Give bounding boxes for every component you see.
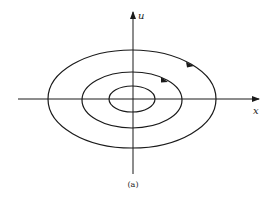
figure-caption: (a)	[127, 180, 138, 189]
x-axis-label: x	[253, 105, 259, 116]
y-axis-label: u	[138, 10, 144, 21]
phase-portrait-diagram: u x (a)	[0, 0, 272, 199]
orbit-middle	[82, 72, 182, 128]
